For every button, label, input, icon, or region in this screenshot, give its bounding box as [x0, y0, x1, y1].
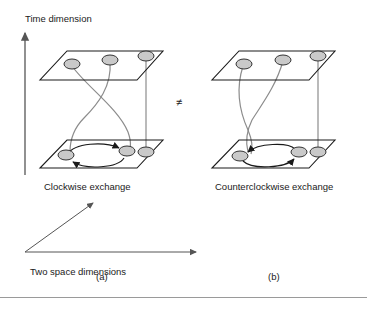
time-axis-label: Time dimension	[25, 14, 92, 24]
panel-b-caption: (b)	[268, 272, 280, 282]
space-axes	[25, 203, 196, 252]
particle-top-right-a	[138, 51, 154, 61]
panel-a-worldlines	[70, 58, 146, 156]
particle-bottom-right-a	[138, 147, 154, 157]
worldline-left-b	[239, 66, 252, 154]
particle-bottom-right-b	[310, 147, 326, 157]
worldline-middle-a	[70, 62, 110, 152]
particle-bottom-left-a	[58, 150, 74, 160]
particle-top-right-b	[310, 51, 326, 61]
footer-divider	[0, 297, 367, 298]
exchange-arc-bottom-a	[73, 158, 124, 167]
particle-top-middle-b	[275, 55, 291, 65]
exchange-loop-a	[68, 144, 124, 167]
diagonal-arrow-icon	[25, 203, 93, 252]
not-equal-symbol: ≠	[176, 97, 182, 108]
particle-top-middle-a	[102, 55, 118, 65]
space-axis-label: Two space dimensions	[30, 267, 126, 277]
figure-root: Time dimension Two space dimensions Cloc…	[0, 0, 367, 312]
particle-bottom-left-b	[232, 151, 248, 161]
panel-a-caption: (a)	[96, 272, 108, 282]
particle-bottom-middle-a	[119, 146, 135, 156]
worldline-middle-b	[247, 61, 283, 152]
exchange-arc-top-b	[248, 144, 295, 152]
exchange-arc-top-a	[68, 144, 119, 154]
particle-top-left-a	[64, 59, 80, 69]
panel-a	[40, 51, 163, 168]
panel-b	[212, 51, 335, 168]
particle-bottom-middle-b	[291, 147, 307, 157]
panel-a-title: Clockwise exchange	[44, 182, 131, 192]
panel-b-title: Counterclockwise exchange	[215, 182, 333, 192]
particle-top-left-b	[236, 59, 252, 69]
exchange-arc-bottom-b	[243, 159, 294, 167]
exchange-loop-b	[243, 144, 295, 166]
